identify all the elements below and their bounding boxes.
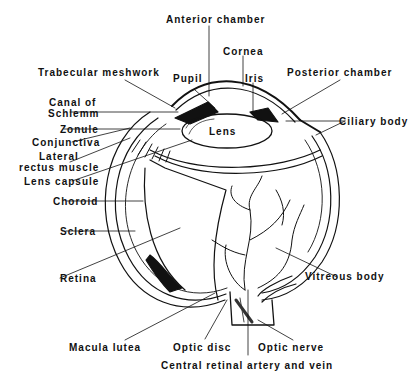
label-lateral-rectus-line2: rectus muscle (19, 162, 99, 173)
label-macula-lutea: Macula lutea (69, 342, 141, 353)
eye-anatomy-diagram: Anterior chamber Cornea Trabecular meshw… (0, 0, 419, 388)
label-sclera: Sclera (60, 226, 96, 237)
label-choroid: Choroid (53, 196, 98, 207)
label-cornea: Cornea (223, 46, 263, 57)
label-vitreous-body: Vitreous body (305, 271, 385, 282)
label-optic-disc: Optic disc (173, 342, 231, 353)
label-canal-of-schlemm-line1: Canal of (49, 97, 96, 108)
label-pupil: Pupil (173, 73, 202, 84)
label-ciliary-body: Ciliary body (339, 116, 408, 127)
label-trabecular-meshwork: Trabecular meshwork (38, 67, 160, 78)
label-central-retinal-artery-and-vein: Central retinal artery and vein (161, 360, 333, 371)
label-lateral-rectus-line1: Lateral (39, 151, 79, 162)
label-optic-nerve: Optic nerve (258, 342, 324, 353)
label-iris: Iris (245, 73, 264, 84)
label-anterior-chamber: Anterior chamber (166, 14, 265, 25)
eye-illustration (0, 0, 419, 388)
label-lens: Lens (209, 126, 236, 137)
label-lens-capsule: Lens capsule (24, 176, 99, 187)
label-posterior-chamber: Posterior chamber (287, 67, 392, 78)
label-canal-of-schlemm-line2: Schlemm (48, 108, 99, 119)
label-conjunctiva: Conjunctiva (32, 137, 100, 148)
label-zonule: Zonule (60, 124, 99, 135)
label-retina: Retina (60, 273, 97, 284)
